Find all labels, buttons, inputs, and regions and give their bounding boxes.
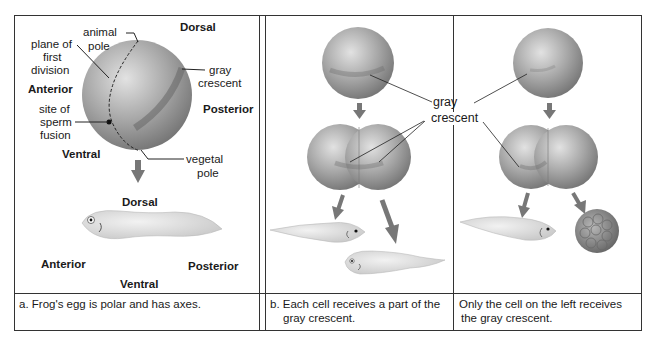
caption-divider — [14, 293, 642, 294]
label-animal: animal — [83, 26, 117, 39]
label-shared-crescent: crescent — [430, 112, 479, 125]
label-vegetal: vegetal — [186, 153, 223, 166]
caption-b-line2: gray crescent. — [283, 311, 355, 325]
label-vegetal-pole: pole — [197, 167, 219, 180]
label-crescent: crescent — [198, 77, 241, 90]
label-animal-pole: pole — [88, 40, 110, 53]
label-plane-2: first — [43, 51, 62, 64]
label-site-3: fusion — [40, 129, 71, 142]
label-site-1: site of — [39, 103, 70, 116]
label-ventral: Ventral — [62, 148, 100, 161]
label-plane-1: plane of — [31, 38, 72, 51]
label-gray: gray — [209, 64, 231, 77]
label-tadpole-ventral: Ventral — [120, 278, 158, 291]
caption-a: a. Frog's egg is polar and has axes. — [19, 297, 201, 311]
label-posterior: Posterior — [203, 103, 254, 116]
divider-ab-2 — [265, 15, 266, 331]
figure-frame — [14, 15, 642, 331]
label-anterior: Anterior — [28, 83, 73, 96]
label-dorsal: Dorsal — [180, 21, 216, 34]
label-plane-3: division — [31, 64, 69, 77]
caption-c-line1: Only the cell on the left receives — [459, 297, 622, 311]
label-tadpole-anterior: Anterior — [41, 258, 86, 271]
label-tadpole-posterior: Posterior — [188, 260, 239, 273]
divider-ab-1 — [259, 15, 260, 331]
caption-b-line1: b. Each cell receives a part of the — [270, 297, 440, 311]
label-site-2: sperm — [40, 116, 72, 129]
caption-c-line2: the gray crescent. — [461, 311, 552, 325]
divider-bc — [453, 15, 454, 331]
label-shared-gray: gray — [433, 96, 457, 109]
label-tadpole-dorsal: Dorsal — [122, 196, 158, 209]
